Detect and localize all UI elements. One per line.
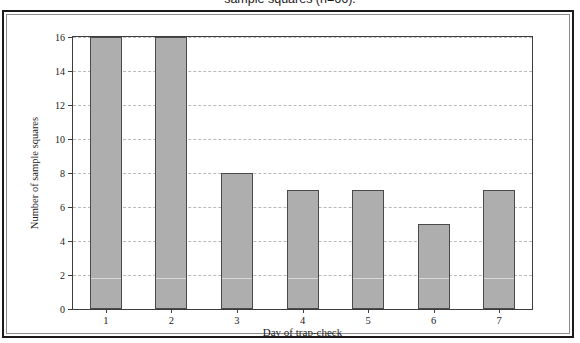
y-tick-mark <box>68 139 73 140</box>
plot-area: 0246810121416 1234567 <box>72 36 533 310</box>
bar <box>287 190 319 309</box>
gridline <box>73 71 532 72</box>
figure-outer-frame: Number of sample squares 0246810121416 1… <box>2 10 574 338</box>
y-tick-mark <box>68 37 73 38</box>
bar <box>483 190 515 309</box>
x-tick-label: 3 <box>234 315 239 326</box>
bar <box>418 224 450 309</box>
y-tick-label: 0 <box>60 304 65 315</box>
x-tick-label: 7 <box>497 315 502 326</box>
x-tick-label: 2 <box>169 315 174 326</box>
bar <box>90 37 122 309</box>
y-tick-mark <box>68 309 73 310</box>
figure-caption-strip: sample squares (n=66). <box>0 0 580 8</box>
y-tick-label: 12 <box>55 100 65 111</box>
gridline <box>73 139 532 140</box>
x-tick-label: 4 <box>300 315 305 326</box>
y-tick-mark <box>68 173 73 174</box>
bar-chart: Number of sample squares 0246810121416 1… <box>7 15 579 343</box>
x-tick-mark <box>499 309 500 313</box>
y-tick-label: 16 <box>55 32 65 43</box>
y-tick-label: 2 <box>60 270 65 281</box>
y-tick-label: 10 <box>55 134 65 145</box>
x-tick-mark <box>106 309 107 313</box>
gridline <box>73 105 532 106</box>
x-tick-mark <box>237 309 238 313</box>
bar <box>221 173 253 309</box>
y-tick-mark <box>68 275 73 276</box>
x-tick-mark <box>434 309 435 313</box>
bar <box>155 37 187 309</box>
figure-caption: sample squares (n=66). <box>0 0 580 6</box>
x-tick-label: 1 <box>103 315 108 326</box>
y-axis-title: Number of sample squares <box>29 36 43 310</box>
y-tick-mark <box>68 207 73 208</box>
x-tick-mark <box>171 309 172 313</box>
x-tick-label: 5 <box>365 315 370 326</box>
x-tick-mark <box>303 309 304 313</box>
gridline <box>73 37 532 38</box>
bar <box>352 190 384 309</box>
x-axis-title: Day of trap-check <box>72 326 533 338</box>
y-tick-label: 4 <box>60 236 65 247</box>
y-tick-mark <box>68 241 73 242</box>
y-tick-mark <box>68 105 73 106</box>
figure-inner-frame: Number of sample squares 0246810121416 1… <box>6 14 570 334</box>
y-tick-mark <box>68 71 73 72</box>
x-tick-label: 6 <box>431 315 436 326</box>
y-tick-label: 14 <box>55 66 65 77</box>
y-tick-label: 8 <box>60 168 65 179</box>
gridline <box>73 173 532 174</box>
x-tick-mark <box>368 309 369 313</box>
y-tick-label: 6 <box>60 202 65 213</box>
